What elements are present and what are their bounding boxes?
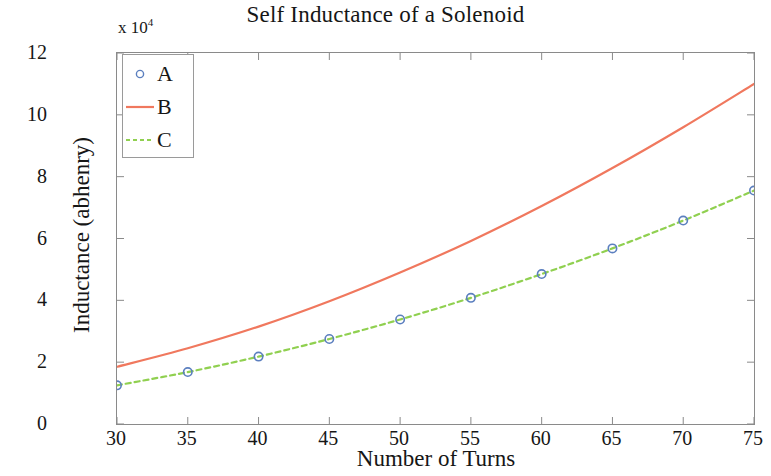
x-tick-label: 65: [581, 427, 641, 450]
legend-label-c: C: [157, 129, 172, 151]
data-series: [117, 84, 754, 390]
x-tick-label: 50: [369, 427, 429, 450]
legend-line-solid-icon: [123, 97, 157, 117]
legend-label-a: A: [157, 63, 173, 85]
legend-label-b: B: [157, 96, 172, 118]
page-title: Self Inductance of a Solenoid: [0, 2, 771, 28]
legend-item-c[interactable]: C: [123, 123, 195, 157]
x-tick-label: 55: [440, 427, 500, 450]
x-tick-label: 30: [86, 427, 146, 450]
legend: A B C: [122, 54, 194, 158]
x-tick-label: 60: [511, 427, 571, 450]
plot-area: [116, 52, 755, 425]
legend-marker-circle-icon: [123, 64, 157, 84]
y-axis-multiplier-base: x 10: [118, 18, 148, 37]
x-tick-label: 40: [228, 427, 288, 450]
y-tick-label: 4: [7, 288, 47, 311]
y-axis-title: Inductance (abhenry): [69, 70, 95, 400]
x-tick-label: 45: [298, 427, 358, 450]
y-tick-label: 2: [7, 350, 47, 373]
legend-item-a[interactable]: A: [123, 57, 195, 91]
y-tick-label: 0: [7, 412, 47, 435]
y-tick-label: 6: [7, 226, 47, 249]
y-axis-multiplier: x 104: [118, 16, 153, 38]
chart-figure: Self Inductance of a Solenoid x 104 Indu…: [0, 0, 771, 476]
plot-canvas: [117, 53, 754, 424]
legend-item-b[interactable]: B: [123, 90, 195, 124]
x-tick-label: 75: [723, 427, 771, 450]
x-tick-label: 70: [652, 427, 712, 450]
y-axis-multiplier-exponent: 4: [148, 16, 154, 28]
y-tick-label: 8: [7, 164, 47, 187]
y-tick-label: 10: [7, 102, 47, 125]
x-tick-label: 35: [157, 427, 217, 450]
axis-ticks: [117, 53, 754, 424]
legend-line-dashed-icon: [123, 130, 157, 150]
y-tick-label: 12: [7, 41, 47, 64]
series-line-b: [117, 84, 754, 367]
series-line-c: [117, 191, 754, 386]
